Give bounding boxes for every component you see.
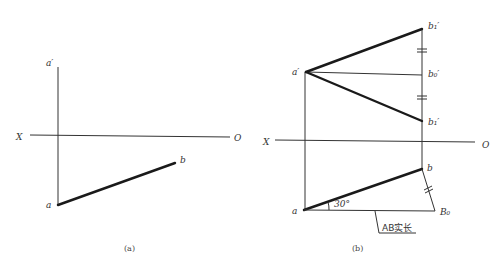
caption-b: (b) [352,244,363,253]
x-axis-line [30,135,230,137]
line-ab-horizontal-projection [304,169,422,210]
point-label-B0: B₀ [439,207,451,217]
point-label-b1-prime-bottom: b₁′ [428,117,439,127]
point-label-b: b [427,163,433,173]
line-b-B0 [422,169,435,211]
projection-diagram: X O a′ a b (a) a′ b₁′ b₀′ [0,0,500,276]
line-a-prime-b0-prime [306,72,422,75]
axis-label-x: X [262,137,270,147]
point-label-b: b [180,155,186,165]
axis-label-o: O [234,133,242,143]
point-label-a: a [46,200,51,210]
line-a-prime-b1-prime-top [306,29,422,72]
axis-label-o: O [482,140,490,150]
figure-a: X O a′ a b (a) [15,58,242,253]
point-label-a-prime: a′ [46,58,53,68]
axis-label-x: X [15,132,23,142]
point-label-a: a [292,206,297,216]
angle-arc [328,202,329,210]
angle-label: 30° [334,199,350,209]
line-a-B0-true-length [304,210,435,211]
caption-a: (a) [124,244,135,253]
point-label-b0-prime: b₀′ [428,69,439,79]
point-label-a-prime: a′ [292,67,299,77]
line-a-prime-b1-prime-bottom [306,72,422,121]
point-label-b1-prime-top: b₁′ [428,21,439,31]
true-length-label: AB实长 [382,222,412,233]
line-ab-horizontal-projection [58,163,175,205]
figure-b: a′ b₁′ b₀′ b₁′ X O b a B₀ 30° AB实长 (b) [262,21,490,253]
